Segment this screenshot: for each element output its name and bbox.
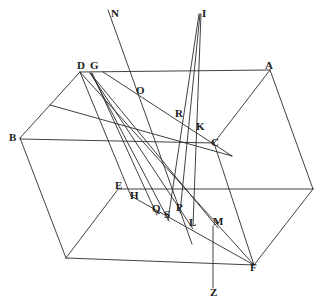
point-label-s: S [164,209,170,220]
edge-bottomleft-e [66,188,119,258]
point-label-h: H [130,190,139,201]
point-label-c: C [211,137,219,148]
edge-b-bottomleft [20,138,66,258]
line-g-q [92,73,157,215]
point-label-k: K [196,121,205,132]
edge-d-a [80,70,270,72]
edge-f-rightmid [254,189,313,265]
line-h-f [131,196,254,265]
point-label-g: G [90,60,99,71]
point-label-n: N [111,8,119,19]
point-label-q: Q [152,203,161,214]
point-label-m: M [213,216,223,227]
edge-a-c [214,70,270,143]
point-label-f: F [250,262,257,273]
edge-a-rightmid [270,70,313,189]
geometry-figure: NIDGAORKCBEHQSPLMFZ [0,0,329,305]
point-label-a: A [265,60,273,71]
point-label-p: P [176,202,183,213]
point-label-z: Z [210,287,217,298]
point-label-e: E [115,180,122,191]
point-label-d: D [77,60,85,71]
figure-canvas [0,0,329,305]
point-label-i: I [202,8,206,19]
point-label-o: O [136,85,145,96]
point-label-r: R [175,108,183,119]
edge-c-f [214,143,254,265]
segment-group [20,10,313,288]
point-label-l: L [189,217,196,228]
edge-bottomleft-f [66,258,254,265]
point-label-b: B [9,132,16,143]
